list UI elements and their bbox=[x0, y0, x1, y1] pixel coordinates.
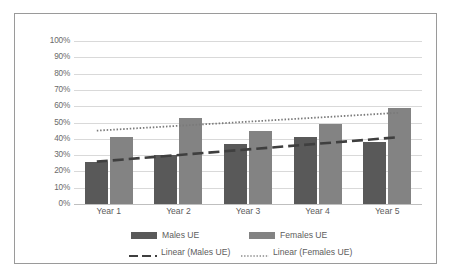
y-axis-tick-label: 70% bbox=[26, 86, 70, 94]
trendline[interactable] bbox=[97, 113, 399, 131]
legend-row-trendlines: Linear (Males UE) Linear (Females UE) bbox=[55, 244, 395, 260]
y-axis-tick-label: 10% bbox=[26, 184, 70, 192]
y-axis-tick-label: 40% bbox=[26, 135, 70, 143]
x-axis-tick-label: Year 3 bbox=[213, 207, 283, 216]
legend-item-linear-males-ue[interactable]: Linear (Males UE) bbox=[129, 244, 230, 260]
legend-row-series: Males UE Females UE bbox=[55, 227, 395, 243]
y-axis-tick-label: 90% bbox=[26, 53, 70, 61]
legend-label: Males UE bbox=[162, 231, 199, 240]
gridline bbox=[74, 204, 422, 205]
legend-item-males-ue[interactable]: Males UE bbox=[131, 227, 199, 243]
bar-swatch-light-icon bbox=[249, 232, 275, 239]
y-axis-tick-label: 0% bbox=[26, 200, 70, 208]
dashed-line-swatch-icon bbox=[129, 247, 157, 257]
chart-legend: Males UE Females UE Linear (Males UE) bbox=[55, 227, 395, 263]
y-axis-tick-label: 30% bbox=[26, 151, 70, 159]
legend-label: Females UE bbox=[280, 231, 327, 240]
trendline[interactable] bbox=[97, 137, 399, 161]
plot-area bbox=[74, 41, 422, 204]
y-axis: 100%90%80%70%60%50%40%30%20%10%0% bbox=[24, 41, 70, 204]
legend-label: Linear (Males UE) bbox=[161, 248, 230, 257]
legend-item-females-ue[interactable]: Females UE bbox=[249, 227, 327, 243]
x-axis-tick-label: Year 4 bbox=[283, 207, 353, 216]
x-axis: Year 1Year 2Year 3Year 4Year 5 bbox=[74, 207, 422, 223]
chart-container: 100%90%80%70%60%50%40%30%20%10%0% Year 1… bbox=[14, 13, 437, 264]
x-axis-tick-label: Year 1 bbox=[74, 207, 144, 216]
x-axis-tick-label: Year 5 bbox=[352, 207, 422, 216]
y-axis-tick-label: 60% bbox=[26, 102, 70, 110]
y-axis-tick-label: 50% bbox=[26, 119, 70, 127]
x-axis-tick-label: Year 2 bbox=[143, 207, 213, 216]
legend-label: Linear (Females UE) bbox=[273, 248, 352, 257]
y-axis-tick-label: 100% bbox=[26, 37, 70, 45]
trendlines-layer bbox=[74, 41, 422, 204]
legend-item-linear-females-ue[interactable]: Linear (Females UE) bbox=[241, 244, 352, 260]
y-axis-tick-label: 20% bbox=[26, 167, 70, 175]
bar-swatch-dark-icon bbox=[131, 232, 157, 239]
y-axis-tick-label: 80% bbox=[26, 70, 70, 78]
dotted-line-swatch-icon bbox=[241, 247, 269, 257]
